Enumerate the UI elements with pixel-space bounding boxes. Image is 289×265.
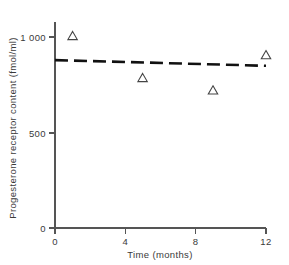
- y-tick-label-500: 500: [29, 128, 46, 139]
- chart-figure: 1 000 500 0 0 4 8 12 Time (months): [0, 0, 289, 265]
- x-tick-label-12: 12: [260, 236, 271, 247]
- x-tick-label-8: 8: [193, 236, 199, 247]
- x-tick-label-0: 0: [52, 236, 58, 247]
- scatter-plot: 1 000 500 0 0 4 8 12 Time (months): [0, 0, 289, 265]
- y-axis-title: Progesterone receptor content (fmol/ml): [7, 37, 18, 219]
- data-point-marker: [68, 31, 77, 39]
- data-point-marker: [208, 86, 217, 94]
- data-point-marker: [138, 73, 147, 81]
- axes-group: [55, 22, 266, 228]
- y-axis-tick-labels: 1 000 500 0: [20, 32, 46, 234]
- x-axis-tick-labels: 0 4 8 12: [52, 236, 272, 247]
- y-tick-label-0: 0: [40, 223, 46, 234]
- y-axis-ticks: [49, 37, 55, 228]
- x-tick-label-4: 4: [122, 236, 128, 247]
- x-axis-title: Time (months): [127, 249, 192, 260]
- data-point-marker: [261, 51, 270, 59]
- x-axis-ticks: [55, 228, 266, 234]
- trend-line: [55, 60, 266, 66]
- y-tick-label-1000: 1 000: [20, 32, 46, 43]
